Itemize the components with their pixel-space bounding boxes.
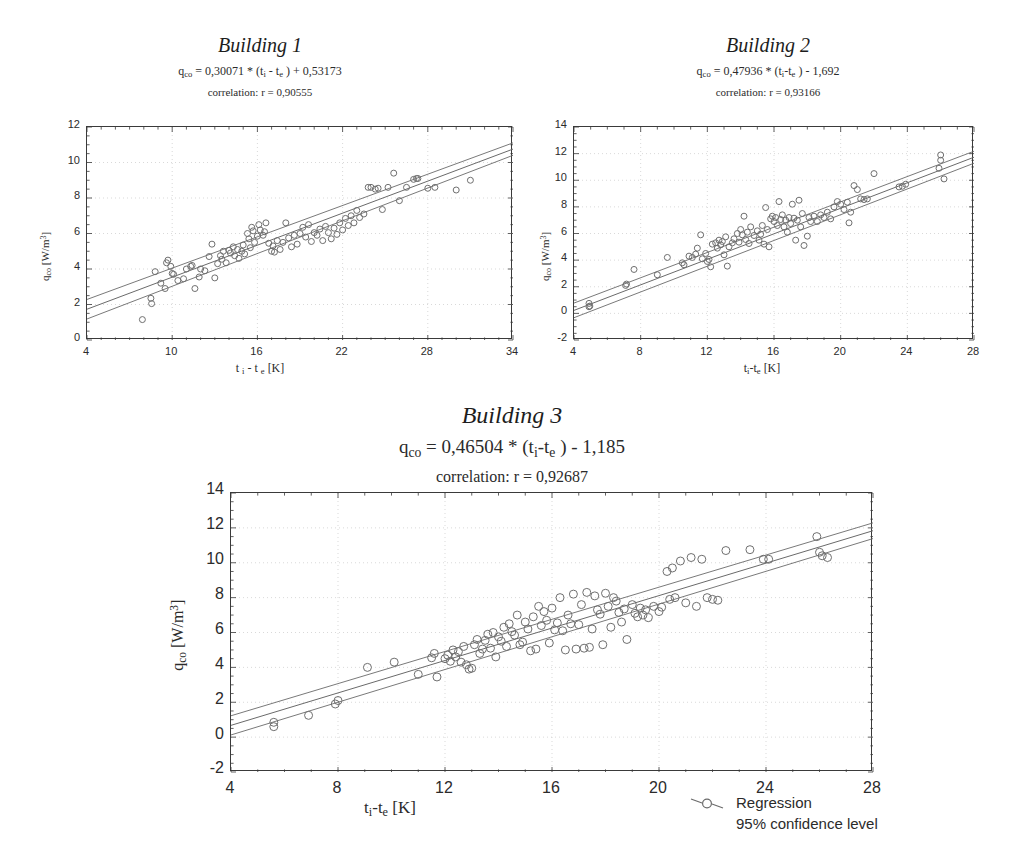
equation-mid: -t bbox=[784, 64, 791, 78]
y-tick-label: 2 bbox=[529, 278, 567, 290]
x-tick-label: 12 bbox=[424, 779, 464, 797]
x-label-sub-i: i bbox=[242, 366, 244, 376]
x-tick-label: 28 bbox=[852, 779, 892, 797]
y-tick-label: -2 bbox=[186, 759, 224, 777]
x-tick-label: 24 bbox=[886, 345, 926, 357]
y-tick-label: 8 bbox=[529, 198, 567, 210]
x-tick-label: 24 bbox=[745, 779, 785, 797]
y-tick-label: 14 bbox=[186, 480, 224, 498]
x-tick-label: 16 bbox=[531, 779, 571, 797]
x-tick-label: 28 bbox=[407, 345, 447, 357]
y-axis-label-building1: qco [W/m3] bbox=[39, 208, 54, 304]
chart-legend: Regression 95% confidence level bbox=[690, 794, 990, 838]
equation-eq: = 0,47936 * (t bbox=[711, 64, 782, 78]
x-tick-label: 4 bbox=[553, 345, 593, 357]
equation-lhs-sub: co bbox=[408, 445, 421, 460]
chart-equation-building2: qco = 0,47936 * (ti-te ) - 1,692 bbox=[512, 64, 1024, 79]
y-tick-label: 14 bbox=[529, 118, 567, 130]
y-tick-label: 6 bbox=[42, 225, 80, 237]
x-label-sub-e: e bbox=[757, 366, 761, 376]
equation-eq: = 0,30071 * (t bbox=[192, 64, 263, 78]
x-label-sub-e: e bbox=[383, 805, 388, 819]
y-tick-label: 12 bbox=[42, 118, 80, 130]
equation-eq: = 0,46504 * (t bbox=[421, 436, 534, 457]
x-tick-label: 10 bbox=[151, 345, 191, 357]
equation-rhs: ) - 1,185 bbox=[555, 436, 625, 457]
equation-mid: -t bbox=[538, 436, 550, 457]
y-tick-label: 10 bbox=[529, 171, 567, 183]
x-axis-label-building3: ti-te [K] bbox=[230, 798, 550, 820]
chart-title-building1: Building 1 bbox=[0, 34, 520, 57]
equation-lhs-sub: co bbox=[703, 69, 711, 79]
plot-area-building1 bbox=[86, 126, 512, 339]
plot-svg-building1 bbox=[87, 127, 513, 340]
y-tick-label: 8 bbox=[42, 189, 80, 201]
y-tick-label: 6 bbox=[186, 620, 224, 638]
y-tick-label: 0 bbox=[529, 304, 567, 316]
chart-correlation-building3: correlation: r = 0,92687 bbox=[0, 468, 1024, 486]
chart-correlation-building1: correlation: r = 0,90555 bbox=[0, 86, 520, 98]
x-label-sub-e: e bbox=[261, 366, 265, 376]
x-tick-label: 4 bbox=[210, 779, 250, 797]
chart-correlation-building2: correlation: r = 0,93166 bbox=[512, 86, 1024, 98]
plot-area-building2 bbox=[573, 126, 973, 339]
x-label-sub-i: i bbox=[747, 366, 749, 376]
plot-svg-building3 bbox=[231, 493, 873, 772]
y-tick-label: -2 bbox=[529, 331, 567, 343]
y-tick-label: 8 bbox=[186, 585, 224, 603]
x-tick-label: 12 bbox=[686, 345, 726, 357]
chart-equation-building3: qco = 0,46504 * (ti-te ) - 1,185 bbox=[0, 436, 1024, 461]
legend-label-confidence: 95% confidence level bbox=[736, 815, 878, 832]
chart-panel-building3: Building 3 qco = 0,46504 * (ti-te ) - 1,… bbox=[0, 400, 1024, 855]
chart-title-building2: Building 2 bbox=[512, 34, 1024, 57]
equation-mid: - t bbox=[266, 64, 279, 78]
x-tick-label: 28 bbox=[953, 345, 993, 357]
regression-circle-marker-icon bbox=[690, 796, 724, 812]
x-axis-label-building2: ti-te [K] bbox=[552, 361, 972, 376]
x-tick-label: 4 bbox=[66, 345, 106, 357]
y-tick-label: 4 bbox=[529, 251, 567, 263]
equation-lhs: q bbox=[399, 436, 409, 457]
x-label-sub-i: i bbox=[369, 805, 372, 819]
y-tick-label: 6 bbox=[529, 225, 567, 237]
y-tick-label: 12 bbox=[529, 145, 567, 157]
y-tick-label: 4 bbox=[186, 655, 224, 673]
x-tick-label: 8 bbox=[620, 345, 660, 357]
chart-title-building3: Building 3 bbox=[0, 402, 1024, 429]
y-label-sup: 3 bbox=[168, 605, 180, 611]
chart-panel-building1: Building 1 qco = 0,30071 * (ti - te ) + … bbox=[0, 34, 520, 394]
equation-rhs: ) - 1,692 bbox=[795, 64, 839, 78]
x-tick-label: 16 bbox=[753, 345, 793, 357]
y-tick-label: 2 bbox=[42, 296, 80, 308]
x-tick-label: 16 bbox=[236, 345, 276, 357]
y-tick-label: 0 bbox=[186, 725, 224, 743]
x-tick-label: 22 bbox=[322, 345, 362, 357]
plot-svg-building2 bbox=[574, 127, 974, 340]
chart-panel-building2: Building 2 qco = 0,47936 * (ti-te ) - 1,… bbox=[512, 34, 1024, 394]
x-tick-label: 20 bbox=[820, 345, 860, 357]
plot-area-building3 bbox=[230, 492, 872, 771]
y-tick-label: 10 bbox=[42, 154, 80, 166]
y-tick-label: 0 bbox=[42, 331, 80, 343]
equation-rhs: ) + 0,53173 bbox=[283, 64, 342, 78]
x-axis-label-building1: t i - t e [K] bbox=[0, 361, 520, 376]
y-tick-label: 4 bbox=[42, 260, 80, 272]
y-tick-label: 10 bbox=[186, 550, 224, 568]
y-tick-label: 12 bbox=[186, 515, 224, 533]
y-label-sub: co bbox=[544, 268, 553, 275]
x-tick-label: 20 bbox=[638, 779, 678, 797]
x-tick-label: 8 bbox=[317, 779, 357, 797]
y-tick-label: 2 bbox=[186, 690, 224, 708]
chart-equation-building1: qco = 0,30071 * (ti - te ) + 0,53173 bbox=[0, 64, 520, 79]
